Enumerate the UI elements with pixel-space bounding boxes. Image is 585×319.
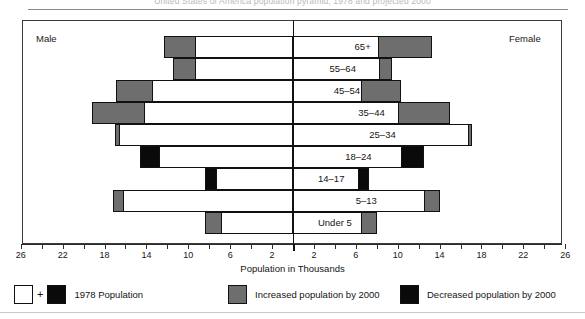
tick-mark — [544, 244, 545, 249]
pyramid-row — [0, 168, 585, 190]
tick-mark — [314, 244, 315, 249]
tick-mark — [398, 244, 399, 249]
tick-mark — [461, 244, 462, 249]
tick-mark — [481, 244, 482, 249]
segment-male-increase — [92, 102, 145, 124]
x-tick-label: 6 — [228, 250, 233, 260]
pyramid-row — [0, 102, 585, 124]
x-tick-label: 18 — [476, 250, 486, 260]
tick-mark — [523, 244, 524, 249]
segment-female-decrease — [401, 146, 424, 168]
tick-mark — [565, 244, 566, 249]
tick-mark — [105, 244, 106, 249]
legend-item-decrease: Decreased population by 2000 — [400, 281, 556, 307]
segment-male-decrease — [205, 168, 217, 190]
tick-mark — [230, 244, 231, 249]
tick-mark — [84, 244, 85, 249]
segment-male-decrease — [140, 146, 160, 168]
legend-item-base: +1978 Population — [14, 281, 143, 307]
pyramid-row — [0, 190, 585, 212]
segment-male-increase — [116, 80, 153, 102]
legend-swatch-gray — [228, 285, 247, 304]
segment-female-increase — [468, 124, 472, 146]
clipped-title-strip: United States of America population pyra… — [0, 0, 585, 9]
x-tick-label: 14 — [141, 250, 151, 260]
segment-female-increase — [379, 58, 393, 80]
segment-male-increase — [115, 124, 120, 146]
tick-mark — [146, 244, 147, 249]
bar-male — [140, 146, 293, 168]
x-tick-label: 2 — [270, 250, 275, 260]
x-tick-label: 6 — [353, 250, 358, 260]
x-tick-label: 26 — [560, 250, 570, 260]
pyramid-row — [0, 36, 585, 58]
tick-mark — [502, 244, 503, 249]
tick-mark — [188, 244, 189, 249]
legend-item-increase: Increased population by 2000 — [228, 281, 380, 307]
x-axis-title: Population in Thousands — [0, 263, 585, 274]
tick-center — [293, 244, 295, 251]
legend-label: Increased population by 2000 — [255, 289, 380, 300]
tick-mark — [63, 244, 64, 249]
segment-female-increase — [424, 190, 440, 212]
segment-male-increase — [164, 36, 195, 58]
legend-label: 1978 Population — [74, 289, 143, 300]
bar-female — [293, 58, 392, 80]
segment-female-decrease — [358, 168, 370, 190]
chart-legend: +1978 PopulationIncreased population by … — [0, 281, 585, 307]
tick-mark — [125, 244, 126, 249]
x-tick-label: 22 — [58, 250, 68, 260]
x-tick-label: 14 — [435, 250, 445, 260]
pyramid-row — [0, 212, 585, 234]
bottom-divider-rule — [0, 312, 585, 313]
tick-mark — [440, 244, 441, 249]
segment-male-increase — [173, 58, 196, 80]
top-divider-rule — [28, 9, 568, 10]
segment-female-increase — [378, 36, 432, 58]
pyramid-row — [0, 58, 585, 80]
x-tick-label: 10 — [393, 250, 403, 260]
bar-male — [205, 168, 293, 190]
bar-male — [115, 124, 293, 146]
tick-mark — [419, 244, 420, 249]
tick-mark — [251, 244, 252, 249]
segment-female-increase — [398, 102, 450, 124]
segment-female-increase — [361, 212, 377, 234]
x-tick-label: 2 — [311, 250, 316, 260]
legend-joiner-plus: + — [37, 288, 43, 300]
x-tick-label: 26 — [16, 250, 26, 260]
segment-male-increase — [113, 190, 125, 212]
bar-male — [113, 190, 293, 212]
tick-mark — [377, 244, 378, 249]
tick-mark — [21, 244, 22, 249]
bar-female — [293, 124, 472, 146]
x-tick-label: 22 — [518, 250, 528, 260]
legend-swatch-black — [47, 285, 66, 304]
chart-title-faint: United States of America population pyra… — [154, 0, 431, 6]
legend-label: Decreased population by 2000 — [427, 289, 556, 300]
tick-mark — [167, 244, 168, 249]
segment-female-increase — [361, 80, 401, 102]
tick-mark — [272, 244, 273, 249]
bar-female — [293, 190, 440, 212]
pyramid-row — [0, 124, 585, 146]
tick-mark — [335, 244, 336, 249]
legend-swatch-black — [400, 285, 419, 304]
x-tick-label: 18 — [100, 250, 110, 260]
tick-mark — [356, 244, 357, 249]
legend-swatch-white — [14, 285, 33, 304]
segment-male-increase — [205, 212, 222, 234]
tick-mark — [209, 244, 210, 249]
pyramid-row — [0, 80, 585, 102]
x-tick-label: 10 — [183, 250, 193, 260]
tick-mark — [42, 244, 43, 249]
pyramid-row — [0, 146, 585, 168]
